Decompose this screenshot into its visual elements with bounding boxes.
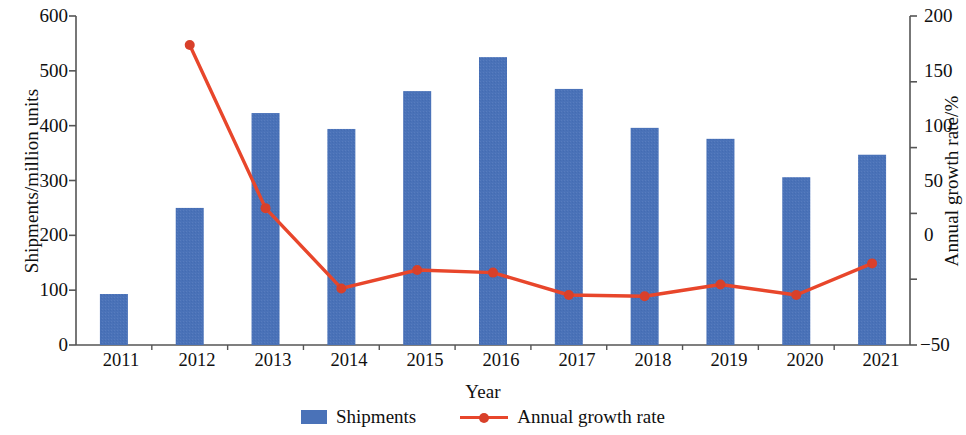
bar-2019 xyxy=(706,139,734,345)
combo-chart: Shipments/million units Annual growth ra… xyxy=(0,0,966,435)
data-point-2014 xyxy=(336,283,346,293)
data-point-2017 xyxy=(564,290,574,300)
bar-2016 xyxy=(479,57,507,345)
growth-rate-line xyxy=(190,45,872,296)
bar-2015 xyxy=(403,91,431,345)
data-point-2018 xyxy=(640,291,650,301)
line-series-group xyxy=(190,45,872,296)
data-point-2012 xyxy=(185,40,195,50)
bar-2020 xyxy=(782,177,810,345)
legend-item-growth-rate[interactable]: Annual growth rate xyxy=(460,406,665,428)
data-point-2013 xyxy=(261,203,271,213)
bar-2017 xyxy=(555,89,583,345)
line-markers-group xyxy=(185,40,877,301)
bars-group xyxy=(100,57,886,345)
bar-2021 xyxy=(858,155,886,345)
bar-2018 xyxy=(631,128,659,345)
data-point-2016 xyxy=(488,268,498,278)
bar-2012 xyxy=(176,208,204,345)
plot-area xyxy=(0,0,966,435)
data-point-2019 xyxy=(715,279,725,289)
bar-2013 xyxy=(252,113,280,345)
data-point-2015 xyxy=(412,265,422,275)
bar-2011 xyxy=(100,294,128,345)
bar-swatch-icon xyxy=(301,410,327,424)
legend: Shipments Annual growth rate xyxy=(0,406,966,428)
legend-label-growth-rate: Annual growth rate xyxy=(517,406,665,428)
legend-item-shipments[interactable]: Shipments xyxy=(301,406,416,428)
legend-label-shipments: Shipments xyxy=(336,406,416,428)
line-marker-swatch-icon xyxy=(460,410,508,424)
bar-2014 xyxy=(327,129,355,345)
data-point-2020 xyxy=(791,290,801,300)
data-point-2021 xyxy=(867,258,877,268)
